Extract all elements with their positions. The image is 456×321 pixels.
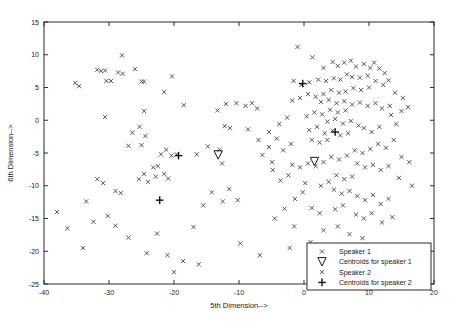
data-point-x [318,140,322,144]
data-point-x [389,113,393,117]
data-point-x [133,67,137,71]
data-point-x [377,125,381,129]
y-tick-label: -15 [29,215,39,222]
data-point-x [346,131,350,135]
data-point-x [380,106,384,110]
data-point-x [275,136,279,140]
data-point-x [159,152,163,156]
data-point-x [292,224,296,228]
data-point-x [334,173,338,177]
data-point-x [392,138,396,142]
data-point-x [327,180,331,184]
data-point-plus [331,128,339,136]
data-point-x [377,66,381,70]
data-point-x [345,72,349,76]
data-point-x [221,199,225,203]
data-point-x [312,110,316,114]
data-point-x [333,117,337,121]
data-point-x [366,104,370,108]
data-point-x [139,143,143,147]
data-point-x [386,78,390,82]
data-point-x [113,189,117,193]
data-point-x [55,210,59,214]
data-point-x [340,192,344,196]
data-point-x [373,101,377,105]
data-point-x [145,251,149,255]
data-point-x [379,168,383,172]
data-point-x [195,152,199,156]
data-point-x [323,131,327,135]
data-point-x [293,197,297,201]
data-point-x [191,225,195,229]
data-point-x [164,148,168,152]
data-point-x [381,83,385,87]
data-point-x [406,105,410,109]
data-point-x [336,64,340,68]
data-point-x [336,224,340,228]
data-point-x [137,177,141,181]
data-point-x [282,207,286,211]
data-point-x [321,92,325,96]
data-point-x [410,184,414,188]
data-point-x [267,130,271,134]
data-point-x [306,92,310,96]
data-point-x [305,114,309,118]
y-tick-label: -5 [33,150,39,157]
data-point-x [273,216,277,220]
data-point-x [126,144,130,148]
data-point-x [338,133,342,137]
data-point-x [360,151,364,155]
data-point-x [154,174,158,178]
data-point-x [306,161,310,165]
data-point-x [246,127,250,131]
legend-label-2: Speaker 2 [339,269,371,277]
data-point-x [234,101,238,105]
data-point-x [314,95,318,99]
data-point-x [155,231,159,235]
data-point-x [329,88,333,92]
data-point-x [316,78,320,82]
data-point-x [166,176,170,180]
data-point-x [386,164,390,168]
data-point-x [95,177,99,181]
data-point-x [267,145,271,149]
data-point-x [342,177,346,181]
data-point-x [347,189,351,193]
y-tick-label: 15 [31,19,39,26]
data-point-x [142,172,146,176]
data-point-x [285,116,289,120]
data-point-x [325,119,329,123]
data-point-x [366,74,370,78]
data-point-x [256,138,260,142]
data-point-x [363,198,367,202]
data-point-x [260,153,264,157]
data-point-plus [156,196,164,204]
data-point-x [388,104,392,108]
data-point-x [363,165,367,169]
data-point-x [169,154,173,158]
data-point-x [325,138,329,142]
data-point-x [271,168,275,172]
data-point-x [342,61,346,65]
data-point-x [197,262,201,266]
data-point-x [401,96,405,100]
y-tick-label: -10 [29,182,39,189]
data-point-x [370,211,374,215]
data-point-x [344,108,348,112]
data-point-x [165,253,169,257]
data-point-x [341,121,345,125]
data-point-x [301,190,305,194]
data-point-x [372,61,376,65]
data-point-x [321,66,325,70]
data-point-x [104,79,108,83]
data-point-x [379,202,383,206]
data-point-x [373,79,377,83]
data-point-x [342,99,346,103]
data-point-x [243,104,247,108]
data-point-x [331,60,335,64]
data-point-x [236,198,240,202]
data-point-x [288,246,292,250]
data-point-x [73,81,77,85]
data-point-x [106,214,110,218]
data-point-x [220,161,224,165]
